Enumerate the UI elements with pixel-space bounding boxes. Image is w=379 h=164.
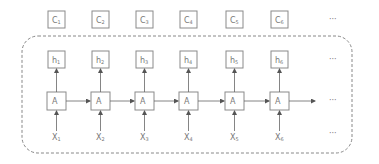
svg-text:X5: X5 bbox=[230, 133, 239, 142]
svg-text:A: A bbox=[96, 97, 102, 106]
svg-text:X2: X2 bbox=[96, 133, 105, 142]
column-3: C3 h3 A X3 bbox=[135, 11, 154, 142]
ellipsis-a: ··· bbox=[329, 96, 337, 105]
ellipsis-h: ··· bbox=[329, 55, 337, 64]
svg-text:A: A bbox=[275, 97, 281, 106]
column-4: C4 h4 A X4 bbox=[179, 11, 198, 142]
svg-text:A: A bbox=[230, 97, 236, 106]
svg-text:A: A bbox=[184, 97, 190, 106]
svg-text:X3: X3 bbox=[140, 133, 149, 142]
column-6: C6 h6 A X6 bbox=[270, 11, 289, 142]
svg-text:X6: X6 bbox=[275, 133, 284, 142]
svg-text:A: A bbox=[52, 97, 58, 106]
rnn-diagram: C1 h1 A X1 C2 h2 A X2 C3 h3 A X3 C4 h4 bbox=[0, 0, 379, 164]
column-5: C5 h5 A X5 bbox=[225, 11, 244, 142]
svg-text:X1: X1 bbox=[52, 133, 61, 142]
ellipsis-x: ··· bbox=[329, 129, 337, 138]
svg-text:A: A bbox=[140, 97, 146, 106]
svg-text:X4: X4 bbox=[184, 133, 193, 142]
ellipsis-c: ··· bbox=[329, 15, 337, 24]
column-1: C1 h1 A X1 bbox=[47, 11, 66, 142]
column-2: C2 h2 A X2 bbox=[91, 11, 110, 142]
